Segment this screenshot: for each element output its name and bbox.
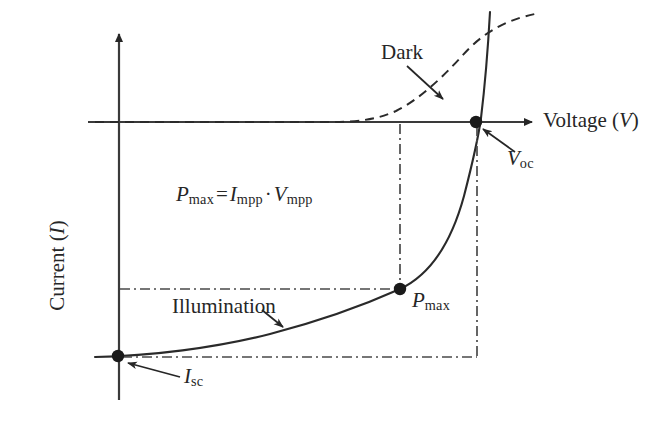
pmax-formula: Pmax=Impp·Vmpp [176, 184, 313, 206]
formula-term1-subscript: mpp [237, 191, 263, 207]
isc-symbol: I [184, 364, 191, 388]
formula-lhs-symbol: P [176, 182, 189, 206]
y-axis-label-close: ) [45, 220, 69, 227]
x-axis-label: Voltage (V) [543, 110, 639, 131]
x-axis-label-text: Voltage ( [543, 108, 619, 132]
y-axis-label: Current (I) [47, 191, 68, 341]
dark-curve-label: Dark [381, 42, 423, 63]
formula-lhs-subscript: max [189, 191, 214, 207]
x-axis-label-close: ) [632, 108, 639, 132]
isc-point-marker [112, 350, 124, 362]
formula-term2-subscript: mpp [287, 191, 313, 207]
figure-canvas: Voltage (V) Current (I) Dark Illuminatio… [0, 0, 667, 424]
dark-leader-line [407, 66, 443, 99]
pmax-symbol: P [412, 288, 425, 312]
voc-symbol: V [507, 146, 520, 170]
pmax-point-marker [394, 283, 406, 295]
voc-subscript: oc [520, 155, 534, 171]
isc-label: Isc [184, 366, 203, 388]
voc-point-marker [470, 116, 482, 128]
dark-curve [95, 13, 540, 122]
formula-operator: · [263, 182, 274, 206]
voc-label: Voc [507, 148, 534, 170]
pmax-subscript: max [425, 297, 450, 313]
y-axis-label-symbol: I [45, 227, 69, 234]
formula-term2-symbol: V [274, 182, 287, 206]
isc-leader-line [128, 363, 180, 377]
isc-subscript: sc [191, 373, 203, 389]
illumination-curve-label: Illumination [172, 296, 276, 317]
formula-equals: = [214, 182, 230, 206]
formula-term1-symbol: I [230, 182, 237, 206]
y-axis-label-text: Current ( [45, 234, 69, 310]
x-axis-label-symbol: V [619, 108, 632, 132]
pmax-label: Pmax [412, 290, 450, 312]
iv-curve-diagram [0, 0, 667, 424]
